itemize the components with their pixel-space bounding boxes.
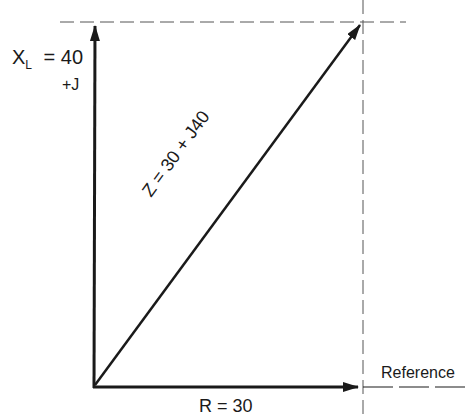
xl-subscript: L xyxy=(25,58,32,72)
xl-symbol: X xyxy=(12,46,25,68)
r-label: R = 30 xyxy=(199,396,253,417)
xl-label: XL = 40 xyxy=(12,46,83,72)
plus-j-label: +J xyxy=(62,76,79,94)
xl-vector-arrow xyxy=(94,26,95,388)
reference-label: Reference xyxy=(381,364,455,382)
xl-value: = 40 xyxy=(44,46,83,68)
z-vector-arrow xyxy=(95,25,360,385)
